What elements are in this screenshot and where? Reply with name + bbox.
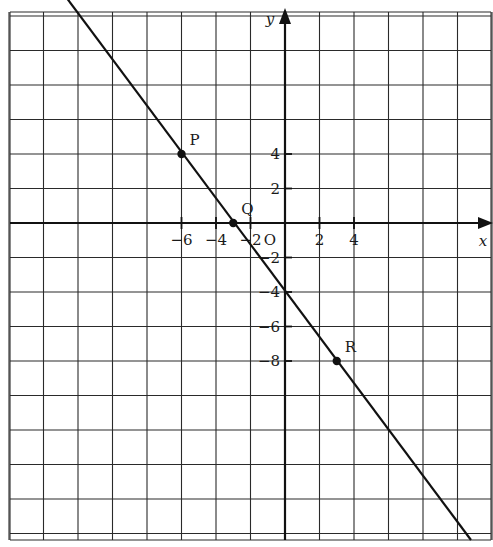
line-PQR — [65, 0, 471, 540]
y-tick-label: −8 — [258, 352, 280, 370]
x-tick-label: −4 — [205, 231, 227, 249]
grid — [9, 12, 492, 540]
y-tick-label: −6 — [258, 318, 280, 336]
y-tick-label: 4 — [270, 145, 280, 163]
x-axis-label: x — [479, 232, 488, 250]
graph-line — [65, 0, 471, 540]
tick-labels: −6−4−22442−2−4−6−8Oxy — [170, 10, 487, 370]
y-tick-label: −4 — [258, 283, 280, 301]
origin-label: O — [264, 231, 276, 249]
point-label-q: Q — [241, 200, 253, 218]
x-tick-label: 4 — [349, 231, 359, 249]
y-tick-label: 2 — [270, 180, 280, 198]
coordinate-graph: −6−4−22442−2−4−6−8Oxy PQR — [0, 0, 493, 547]
axes — [10, 8, 493, 540]
point-label-p: P — [190, 131, 200, 149]
x-tick-label: −6 — [170, 231, 192, 249]
y-axis-label: y — [265, 10, 275, 28]
point-q-icon — [229, 219, 237, 227]
point-label-r: R — [345, 338, 357, 356]
x-tick-label: 2 — [315, 231, 325, 249]
point-r-icon — [333, 357, 341, 365]
point-p-icon — [177, 150, 185, 158]
